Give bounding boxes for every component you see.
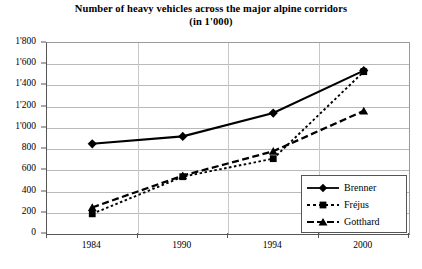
x-axis-tick bbox=[408, 233, 409, 238]
y-axis-tick-label: 1'600 bbox=[15, 58, 36, 68]
legend-key-brenner-diamond-icon bbox=[306, 182, 340, 194]
x-axis-tick bbox=[46, 233, 47, 238]
y-axis-tick-label: 200 bbox=[22, 207, 36, 217]
y-axis-labels: 02004006008001'0001'2001'4001'6001'800 bbox=[0, 42, 42, 233]
y-axis-tick-label: 1'200 bbox=[15, 101, 36, 111]
legend-item-frejus[interactable]: Fréjus bbox=[306, 196, 402, 213]
data-point-brenner-1994 bbox=[269, 108, 278, 117]
y-axis-tick-label: 800 bbox=[22, 143, 36, 153]
y-axis-tick-label: 0 bbox=[31, 228, 36, 238]
x-axis-tick-label: 1984 bbox=[82, 240, 101, 250]
legend-label-frejus: Fréjus bbox=[340, 199, 369, 210]
legend-item-brenner[interactable]: Brenner bbox=[306, 179, 402, 196]
x-axis-tick-label: 2000 bbox=[353, 240, 372, 250]
data-point-brenner-1984 bbox=[88, 139, 97, 148]
y-axis-tick-label: 400 bbox=[22, 186, 36, 196]
y-axis-tick-label: 1'400 bbox=[15, 80, 36, 90]
chart-title: Number of heavy vehicles across the majo… bbox=[0, 2, 422, 15]
series-line-brenner bbox=[92, 71, 364, 144]
x-axis-labels: 1984199019942000 bbox=[46, 236, 408, 256]
y-axis-tick-label: 600 bbox=[22, 165, 36, 175]
data-point-gotthard-2000 bbox=[359, 107, 368, 115]
legend-label-gotthard: Gotthard bbox=[340, 216, 380, 227]
chart-container: Number of heavy vehicles across the majo… bbox=[0, 0, 422, 269]
chart-title-block: Number of heavy vehicles across the majo… bbox=[0, 2, 422, 28]
y-axis-tick-label: 1'800 bbox=[15, 37, 36, 47]
x-axis-tick bbox=[318, 233, 319, 238]
legend: Brenner Fréjus Gotthard bbox=[301, 175, 407, 233]
data-point-fréjus-2000 bbox=[360, 68, 367, 75]
legend-key-frejus-square-icon bbox=[306, 199, 340, 211]
x-axis-tick bbox=[137, 233, 138, 238]
x-axis-tick-label: 1994 bbox=[263, 240, 282, 250]
plot-area: Brenner Fréjus Gotthard bbox=[46, 42, 410, 235]
chart-subtitle: (in 1'000) bbox=[0, 15, 422, 28]
x-axis-tick-label: 1990 bbox=[172, 240, 191, 250]
data-point-brenner-1990 bbox=[178, 132, 187, 141]
x-axis-tick bbox=[227, 233, 228, 238]
legend-key-gotthard-triangle-icon bbox=[306, 216, 340, 228]
y-axis-tick-label: 1'000 bbox=[15, 122, 36, 132]
legend-label-brenner: Brenner bbox=[340, 182, 376, 193]
data-point-fréjus-1984 bbox=[89, 210, 96, 217]
data-point-fréjus-1994 bbox=[270, 155, 277, 162]
legend-item-gotthard[interactable]: Gotthard bbox=[306, 213, 402, 230]
